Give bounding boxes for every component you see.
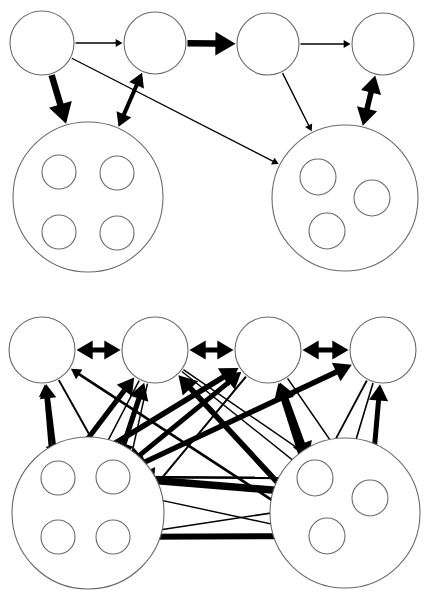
- inner-node-dL_br[interactable]: [96, 520, 130, 554]
- cluster-circle-dR[interactable]: [270, 438, 420, 588]
- network-diagram-svg: [0, 0, 428, 596]
- inner-node-dL_tl[interactable]: [41, 461, 75, 495]
- inner-node-cL_tr[interactable]: [100, 156, 134, 190]
- node-t4[interactable]: [352, 13, 414, 75]
- inner-node-cR_r[interactable]: [354, 180, 390, 216]
- inner-node-cR_t[interactable]: [300, 159, 336, 195]
- node-t3[interactable]: [237, 13, 299, 75]
- cluster-circle-cL[interactable]: [13, 122, 163, 272]
- node-b2[interactable]: [122, 317, 188, 383]
- inner-node-cR_b[interactable]: [309, 213, 345, 249]
- node-t2[interactable]: [124, 12, 186, 74]
- inner-node-cL_bl[interactable]: [42, 215, 76, 249]
- node-b4[interactable]: [350, 317, 416, 383]
- inner-node-dL_tr[interactable]: [96, 460, 130, 494]
- node-b1[interactable]: [9, 317, 75, 383]
- inner-node-dR_b[interactable]: [309, 518, 345, 554]
- inner-node-dR_t[interactable]: [297, 460, 333, 496]
- inner-node-cL_tl[interactable]: [42, 155, 76, 189]
- node-b3[interactable]: [235, 317, 301, 383]
- diagram-canvas: [0, 0, 428, 596]
- inner-node-dL_bl[interactable]: [41, 520, 75, 554]
- inner-node-dR_r[interactable]: [352, 480, 388, 516]
- node-t1[interactable]: [10, 11, 74, 75]
- inner-node-cL_br[interactable]: [100, 216, 134, 250]
- cluster-circle-cR[interactable]: [272, 125, 418, 271]
- cluster-circle-dL[interactable]: [12, 437, 164, 589]
